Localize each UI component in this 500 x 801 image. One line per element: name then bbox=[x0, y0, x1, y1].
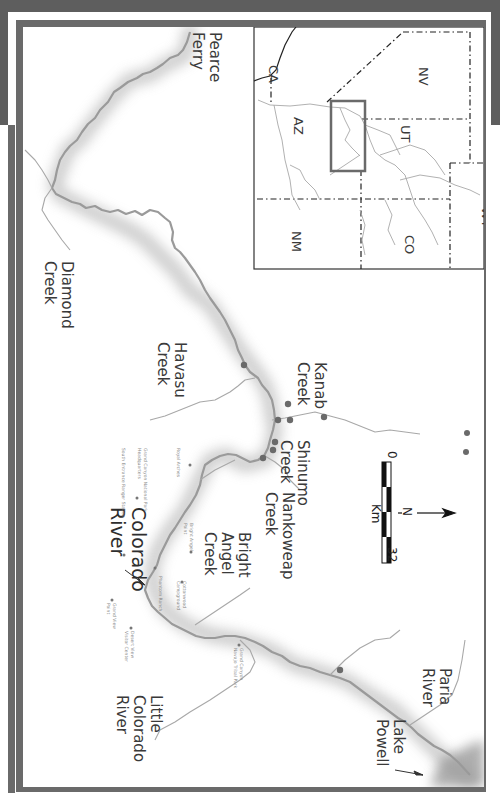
place-grand-view-point: Grand View Point bbox=[106, 603, 117, 629]
place-navajo-tribal-park: Grand Canyon Navajo Tribal Park bbox=[233, 648, 244, 688]
map-canvas: Pearce Ferry Diamond Creek Havasu Creek … bbox=[23, 27, 484, 787]
label-nankoweap-creek: Nankoweap Creek bbox=[262, 492, 296, 579]
place-cottonwood-campground: Cottonwood Campground bbox=[176, 581, 187, 610]
inset-state-az: AZ bbox=[290, 117, 305, 135]
label-diamond-creek: Diamond Creek bbox=[41, 261, 75, 329]
scale-start: 0 bbox=[385, 451, 398, 459]
label-havasu-creek: Havasu Creek bbox=[154, 342, 188, 398]
label-kanab-creek: Kanab Creek bbox=[294, 362, 328, 409]
label-paria-river: Paria River bbox=[419, 668, 453, 707]
inset-state-ca: CA bbox=[265, 65, 280, 83]
inset-state-wy: WY bbox=[478, 207, 484, 228]
left-edge-bar bbox=[8, 125, 15, 793]
place-desert-view: Desert View Visitor Center bbox=[124, 631, 135, 662]
label-bright-angel-creek: Bright Angel Creek bbox=[202, 532, 252, 578]
inset-state-nm: NM bbox=[288, 231, 303, 252]
inset-state-ut: UT bbox=[397, 125, 412, 142]
place-phantom-ranch: Phantom Ranch bbox=[157, 576, 163, 611]
place-royal-arches: Royal Arches bbox=[175, 448, 181, 477]
label-lake-powell: Lake Powell bbox=[373, 719, 407, 767]
inset-state-co: CO bbox=[401, 235, 416, 254]
north-label: N bbox=[400, 507, 413, 516]
label-little-colorado-river: Little Colorado River bbox=[114, 695, 164, 762]
scale-unit: Km bbox=[369, 504, 382, 524]
map-graphics bbox=[23, 27, 484, 787]
place-south-entrance: South Entrance Ranger Station bbox=[120, 448, 126, 518]
scale-end: 32 bbox=[385, 547, 398, 562]
place-bright-angel-point: Bright Angel Point bbox=[183, 523, 194, 551]
inset-state-nv: NV bbox=[415, 67, 430, 86]
label-pearce-ferry: Pearce Ferry bbox=[189, 32, 223, 82]
label-colorado-river: Colorado River bbox=[106, 507, 149, 592]
place-gcnp-headquarters: Grand Canyon National Park Headquarters bbox=[137, 448, 148, 512]
